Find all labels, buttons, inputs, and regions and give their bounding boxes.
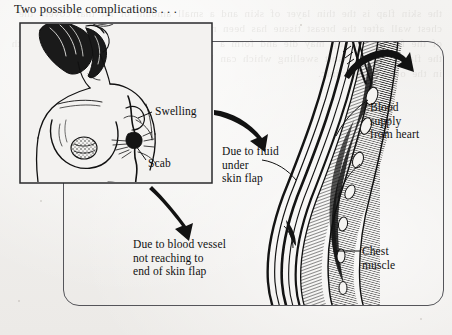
label-scab: Scab <box>148 157 171 171</box>
paper-speck <box>40 200 42 202</box>
callout-vessel-line-2: not reaching to <box>133 252 251 266</box>
blood-supply-line-2: supply <box>370 115 448 129</box>
label-swelling: Swelling <box>155 105 197 119</box>
callout-vessel-line-1: Due to blood vessel <box>133 238 251 252</box>
paper-speck <box>300 24 302 26</box>
callout-fluid: Due to fluid under skin flap <box>222 145 294 186</box>
chest-muscle-line-2: muscle <box>362 259 418 273</box>
callout-fluid-line-2: under <box>222 159 294 173</box>
page-title: Two possible complications . . . <box>14 2 177 17</box>
paper-speck <box>18 300 20 302</box>
callout-vessel: Due to blood vessel not reaching to end … <box>133 238 251 279</box>
callout-fluid-line-3: skin flap <box>222 172 294 186</box>
callout-fluid-line-1: Due to fluid <box>222 145 294 159</box>
blood-supply-line-1: Blood <box>370 101 448 115</box>
callout-vessel-line-3: end of skin flap <box>133 265 251 279</box>
chest-muscle-line-1: Chest <box>362 245 418 259</box>
paper-speck <box>420 318 422 320</box>
label-blood-supply: Blood supply from heart <box>370 101 448 142</box>
label-chest-muscle: Chest muscle <box>362 245 418 272</box>
blood-supply-line-3: from heart <box>370 128 448 142</box>
